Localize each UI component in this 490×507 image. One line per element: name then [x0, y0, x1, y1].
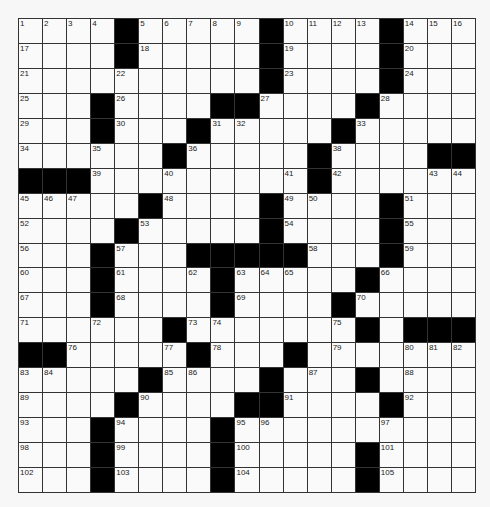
grid-cell[interactable]	[284, 368, 307, 392]
grid-cell[interactable]	[43, 119, 66, 143]
grid-cell[interactable]: 63	[235, 268, 258, 292]
grid-cell[interactable]	[356, 169, 379, 193]
grid-cell[interactable]	[67, 293, 90, 317]
grid-cell[interactable]	[187, 194, 210, 218]
grid-cell[interactable]	[67, 44, 90, 68]
grid-cell[interactable]	[332, 268, 355, 292]
grid-cell[interactable]	[187, 393, 210, 417]
grid-cell[interactable]	[115, 194, 138, 218]
grid-cell[interactable]	[187, 443, 210, 467]
grid-cell[interactable]	[187, 44, 210, 68]
grid-cell[interactable]	[308, 119, 331, 143]
grid-cell[interactable]	[43, 69, 66, 93]
grid-cell[interactable]: 54	[284, 219, 307, 243]
grid-cell[interactable]	[284, 293, 307, 317]
grid-cell[interactable]	[332, 69, 355, 93]
grid-cell[interactable]	[235, 318, 258, 342]
grid-cell[interactable]: 26	[115, 94, 138, 118]
grid-cell[interactable]: 27	[260, 94, 283, 118]
grid-cell[interactable]: 8	[211, 19, 234, 43]
grid-cell[interactable]	[43, 44, 66, 68]
grid-cell[interactable]	[404, 443, 427, 467]
grid-cell[interactable]	[404, 268, 427, 292]
grid-cell[interactable]	[139, 418, 162, 442]
grid-cell[interactable]: 89	[19, 393, 42, 417]
grid-cell[interactable]	[139, 468, 162, 492]
grid-cell[interactable]	[139, 443, 162, 467]
grid-cell[interactable]	[260, 169, 283, 193]
grid-cell[interactable]	[332, 194, 355, 218]
grid-cell[interactable]	[452, 268, 475, 292]
grid-cell[interactable]	[67, 393, 90, 417]
grid-cell[interactable]	[235, 219, 258, 243]
grid-cell[interactable]	[332, 368, 355, 392]
grid-cell[interactable]	[115, 169, 138, 193]
grid-cell[interactable]: 31	[211, 119, 234, 143]
grid-cell[interactable]	[260, 144, 283, 168]
grid-cell[interactable]	[91, 44, 114, 68]
grid-cell[interactable]	[235, 343, 258, 367]
grid-cell[interactable]	[356, 244, 379, 268]
grid-cell[interactable]: 40	[163, 169, 186, 193]
grid-cell[interactable]: 58	[308, 244, 331, 268]
grid-cell[interactable]	[139, 69, 162, 93]
grid-cell[interactable]	[163, 293, 186, 317]
grid-cell[interactable]	[380, 318, 403, 342]
grid-cell[interactable]: 39	[91, 169, 114, 193]
grid-cell[interactable]	[260, 293, 283, 317]
grid-cell[interactable]	[452, 418, 475, 442]
grid-cell[interactable]	[452, 443, 475, 467]
grid-cell[interactable]: 81	[428, 343, 451, 367]
grid-cell[interactable]	[452, 393, 475, 417]
grid-cell[interactable]	[187, 468, 210, 492]
grid-cell[interactable]: 46	[43, 194, 66, 218]
grid-cell[interactable]: 96	[260, 418, 283, 442]
grid-cell[interactable]: 45	[19, 194, 42, 218]
grid-cell[interactable]: 28	[380, 94, 403, 118]
grid-cell[interactable]: 35	[91, 144, 114, 168]
grid-cell[interactable]	[308, 318, 331, 342]
grid-cell[interactable]	[91, 194, 114, 218]
grid-cell[interactable]	[308, 268, 331, 292]
grid-cell[interactable]: 36	[187, 144, 210, 168]
grid-cell[interactable]: 53	[139, 219, 162, 243]
grid-cell[interactable]	[284, 144, 307, 168]
grid-cell[interactable]: 55	[404, 219, 427, 243]
grid-cell[interactable]	[67, 418, 90, 442]
grid-cell[interactable]	[139, 343, 162, 367]
grid-cell[interactable]	[284, 468, 307, 492]
grid-cell[interactable]: 80	[404, 343, 427, 367]
grid-cell[interactable]	[211, 393, 234, 417]
grid-cell[interactable]: 75	[332, 318, 355, 342]
grid-cell[interactable]: 62	[187, 268, 210, 292]
grid-cell[interactable]	[163, 393, 186, 417]
grid-cell[interactable]	[115, 368, 138, 392]
grid-cell[interactable]: 65	[284, 268, 307, 292]
grid-cell[interactable]: 19	[284, 44, 307, 68]
grid-cell[interactable]	[404, 293, 427, 317]
grid-cell[interactable]: 64	[260, 268, 283, 292]
grid-cell[interactable]	[260, 119, 283, 143]
grid-cell[interactable]: 94	[115, 418, 138, 442]
grid-cell[interactable]	[332, 393, 355, 417]
grid-cell[interactable]: 34	[19, 144, 42, 168]
grid-cell[interactable]	[332, 44, 355, 68]
grid-cell[interactable]: 21	[19, 69, 42, 93]
grid-cell[interactable]	[404, 169, 427, 193]
grid-cell[interactable]: 17	[19, 44, 42, 68]
grid-cell[interactable]: 78	[211, 343, 234, 367]
grid-cell[interactable]	[356, 343, 379, 367]
grid-cell[interactable]: 56	[19, 244, 42, 268]
grid-cell[interactable]: 100	[235, 443, 258, 467]
grid-cell[interactable]	[428, 244, 451, 268]
grid-cell[interactable]	[163, 443, 186, 467]
grid-cell[interactable]	[91, 368, 114, 392]
grid-cell[interactable]: 73	[187, 318, 210, 342]
grid-cell[interactable]	[260, 468, 283, 492]
grid-cell[interactable]: 52	[19, 219, 42, 243]
grid-cell[interactable]: 83	[19, 368, 42, 392]
grid-cell[interactable]: 104	[235, 468, 258, 492]
grid-cell[interactable]	[332, 94, 355, 118]
grid-cell[interactable]	[43, 443, 66, 467]
grid-cell[interactable]	[308, 44, 331, 68]
